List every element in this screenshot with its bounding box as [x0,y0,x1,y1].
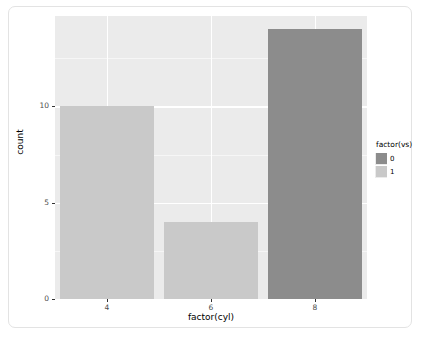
legend-title: factor(vs) [376,140,415,149]
x-axis-title: factor(cyl) [55,312,367,322]
legend-label: 1 [390,168,394,176]
y-tick-label: 0 [44,295,49,303]
chart-card: count factor(cyl) factor(vs) 01 0510468 [8,6,412,328]
y-tick-label: 5 [44,199,49,207]
legend: factor(vs) 01 [375,140,415,178]
y-tick-mark [52,106,55,107]
bar-segment [60,106,154,299]
x-tick-label: 8 [295,304,335,312]
legend-items: 01 [375,152,415,178]
legend-item: 1 [375,165,415,178]
x-tick-mark [211,299,212,302]
ggplot-figure: count factor(cyl) factor(vs) 01 0510468 [9,7,413,329]
legend-key [375,166,387,178]
plot-panel [55,16,367,299]
legend-label: 0 [390,155,394,163]
x-tick-label: 6 [191,304,231,312]
bar-segment [268,29,362,299]
y-tick-label: 10 [39,102,49,110]
x-tick-label: 4 [87,304,127,312]
x-tick-mark [107,299,108,302]
legend-item: 0 [375,152,415,165]
y-tick-mark [52,299,55,300]
y-tick-mark [52,203,55,204]
legend-swatch [376,153,387,164]
y-axis-title: count [15,107,25,177]
x-tick-mark [315,299,316,302]
bar-segment [164,222,258,299]
legend-key [375,153,387,165]
legend-swatch [376,166,387,177]
